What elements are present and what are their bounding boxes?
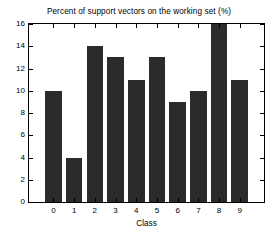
y-axis-tick-mark [260, 91, 264, 92]
x-axis-tick-mark [157, 198, 158, 202]
y-axis-tick-label: 2 [1, 176, 25, 184]
y-axis-tick-mark [29, 180, 33, 181]
bar [45, 91, 62, 202]
x-axis-tick-mark [74, 24, 75, 28]
y-axis-tick-mark [260, 69, 264, 70]
y-axis-tick-label: 14 [1, 42, 25, 50]
x-axis-tick-mark [219, 198, 220, 202]
y-axis-tick-mark [29, 135, 33, 136]
x-axis-tick-mark [53, 198, 54, 202]
x-axis-tick-mark [53, 24, 54, 28]
chart-title: Percent of support vectors on the workin… [0, 7, 278, 16]
y-axis-tick-mark [260, 113, 264, 114]
x-axis-tick-mark [219, 24, 220, 28]
x-axis-tick-mark [95, 198, 96, 202]
x-axis-tick-label: 5 [147, 206, 167, 215]
bar [190, 91, 207, 202]
y-axis-tick-labels: 0246810121416 [0, 23, 25, 203]
y-axis-tick-label: 8 [1, 109, 25, 117]
x-axis-tick-label: 3 [106, 206, 126, 215]
y-axis-tick-mark [29, 202, 33, 203]
x-axis-tick-mark [198, 24, 199, 28]
plot-area [28, 23, 265, 203]
y-axis-tick-mark [29, 69, 33, 70]
x-axis-tick-label: 9 [230, 206, 250, 215]
x-axis-tick-mark [240, 198, 241, 202]
plot-inner [29, 24, 264, 202]
x-axis-tick-mark [116, 198, 117, 202]
x-axis-tick-mark [157, 24, 158, 28]
y-axis-tick-mark [29, 46, 33, 47]
bar [87, 46, 104, 202]
y-axis-tick-label: 10 [1, 87, 25, 95]
x-axis-label: Class [28, 219, 265, 228]
x-axis-tick-mark [116, 24, 117, 28]
bar [211, 24, 228, 202]
y-axis-tick-mark [260, 135, 264, 136]
x-axis-tick-label: 0 [43, 206, 63, 215]
y-axis-tick-mark [29, 113, 33, 114]
y-axis-tick-mark [260, 158, 264, 159]
x-axis-tick-mark [178, 24, 179, 28]
bar [169, 102, 186, 202]
x-axis-tick-label: 2 [85, 206, 105, 215]
y-axis-tick-mark [29, 24, 33, 25]
x-axis-tick-label: 4 [126, 206, 146, 215]
y-axis-tick-mark [29, 158, 33, 159]
chart-figure: Percent of support vectors on the workin… [0, 0, 278, 243]
x-axis-tick-mark [74, 198, 75, 202]
bar [128, 80, 145, 202]
x-axis-tick-mark [178, 198, 179, 202]
y-axis-tick-label: 6 [1, 131, 25, 139]
y-axis-tick-mark [260, 46, 264, 47]
x-axis-tick-mark [240, 24, 241, 28]
bar [149, 57, 166, 202]
y-axis-tick-mark [260, 202, 264, 203]
bar [107, 57, 124, 202]
y-axis-tick-mark [260, 24, 264, 25]
x-axis-tick-mark [136, 24, 137, 28]
x-axis-tick-label: 8 [209, 206, 229, 215]
y-axis-tick-mark [260, 180, 264, 181]
bar [66, 158, 83, 203]
x-axis-tick-mark [95, 24, 96, 28]
bar [231, 80, 248, 202]
x-axis-tick-label: 7 [188, 206, 208, 215]
x-axis-tick-mark [136, 198, 137, 202]
x-axis-tick-mark [198, 198, 199, 202]
y-axis-tick-label: 0 [1, 198, 25, 206]
y-axis-tick-label: 16 [1, 20, 25, 28]
y-axis-tick-label: 12 [1, 65, 25, 73]
x-axis-tick-label: 1 [64, 206, 84, 215]
x-axis-tick-label: 6 [168, 206, 188, 215]
y-axis-tick-mark [29, 91, 33, 92]
x-axis-tick-labels: 0123456789 [28, 206, 265, 218]
y-axis-tick-label: 4 [1, 154, 25, 162]
